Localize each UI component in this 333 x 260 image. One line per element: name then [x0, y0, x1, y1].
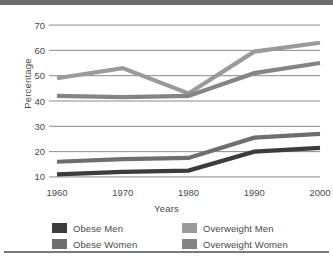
legend-swatch	[52, 239, 67, 249]
legend-label: Overweight Men	[203, 223, 274, 234]
y-tick-label: 30	[34, 121, 45, 132]
x-axis-title: Years	[0, 203, 333, 214]
y-tick-label: 10	[34, 171, 45, 182]
chart-legend: Obese MenOverweight MenObese WomenOverwe…	[52, 220, 320, 252]
series-line	[57, 134, 320, 162]
plot-area: 10203040506070 19601970198019902000 Perc…	[0, 6, 333, 206]
y-tick-label: 70	[34, 20, 45, 31]
y-axis-title: Percentage	[22, 39, 33, 129]
legend-label: Obese Men	[73, 223, 123, 234]
x-tick-label: 1990	[244, 187, 265, 198]
bottom-divider-rule	[4, 251, 329, 253]
y-tick-label: 20	[34, 146, 45, 157]
y-tick-label: 50	[34, 70, 45, 81]
legend-swatch	[182, 239, 197, 249]
legend-item: Overweight Women	[182, 236, 320, 252]
x-tick-label: 1980	[178, 187, 199, 198]
x-tick-label: 1970	[112, 187, 133, 198]
legend-swatch	[52, 223, 67, 233]
line-chart-svg: 10203040506070 19601970198019902000	[0, 6, 333, 206]
chart-figure: 10203040506070 19601970198019902000 Perc…	[0, 0, 333, 260]
legend-label: Obese Women	[73, 239, 137, 250]
legend-item: Overweight Men	[182, 220, 320, 236]
data-series-lines	[57, 43, 320, 175]
x-tick-label: 2000	[309, 187, 330, 198]
top-divider-bar	[0, 0, 333, 5]
legend-swatch	[182, 223, 197, 233]
x-tick-label: 1960	[46, 187, 67, 198]
legend-label: Overweight Women	[203, 239, 288, 250]
legend-item: Obese Men	[52, 220, 182, 236]
legend-item: Obese Women	[52, 236, 182, 252]
x-axis-ticks: 19601970198019902000	[46, 187, 330, 198]
y-tick-label: 60	[34, 45, 45, 56]
y-tick-label: 40	[34, 96, 45, 107]
y-axis-ticks: 10203040506070	[34, 20, 45, 183]
